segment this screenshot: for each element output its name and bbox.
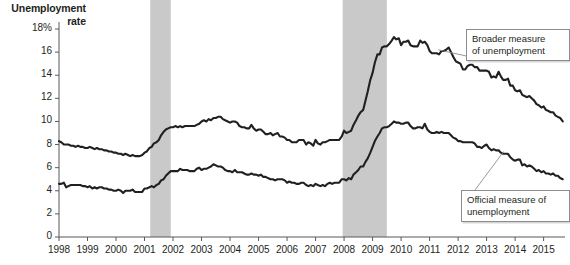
official-callout-leader-line — [475, 151, 504, 190]
y-tick-label: 10 — [8, 114, 52, 125]
y-tick-label: 14 — [8, 68, 52, 79]
series-line — [59, 121, 563, 193]
official-callout: Official measure of unemployment — [461, 190, 570, 222]
y-tick-label: 4 — [8, 184, 52, 195]
y-tick-label: 12 — [8, 91, 52, 102]
y-tick-label: 16 — [8, 45, 52, 56]
recession-2008-band — [343, 0, 387, 237]
x-tick-label: 2015 — [522, 244, 566, 255]
unemployment-rate-chart: Unemployment rate 18%1614121086420199819… — [0, 0, 570, 265]
y-tick-label: 0 — [8, 230, 52, 241]
y-tick-label: 8 — [8, 138, 52, 149]
recession-2001-band — [150, 0, 171, 237]
y-tick-label: 6 — [8, 161, 52, 172]
broader-callout: Broader measure of unemployment — [466, 29, 570, 61]
y-tick-label: 2 — [8, 207, 52, 218]
y-tick-label: 18% — [8, 22, 52, 33]
